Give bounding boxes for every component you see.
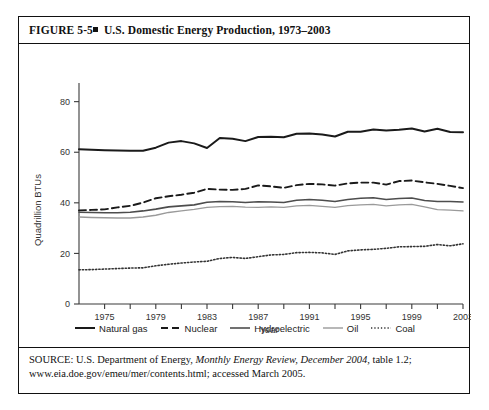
legend-swatch-dotted-icon [371, 324, 391, 332]
legend-label: Coal [395, 323, 415, 334]
legend-item-coal: Coal [371, 323, 415, 334]
legend-item-nuclear: Nuclear [161, 323, 218, 334]
chart-legend: Natural gasNuclearHydroelectricOilCoal [19, 316, 471, 340]
legend-item-natural-gas: Natural gas [75, 323, 148, 334]
legend-swatch-solid-medium-icon [230, 324, 250, 332]
chart-series-group [79, 128, 463, 269]
page-title: U.S. Domestic Energy Production, 1973–20… [104, 24, 331, 36]
line-chart: 0204060801975197919831987199119951999200… [19, 45, 471, 345]
y-tick-label: 20 [60, 249, 70, 259]
series-line-nuclear [79, 181, 463, 211]
figure-title-row: FIGURE 5-5 U.S. Domestic Energy Producti… [19, 17, 469, 43]
source-publication: Monthly Energy Review, December 2004 [196, 354, 368, 365]
y-tick-label: 60 [60, 147, 70, 157]
chart-tick-labels: 0204060801975197919831987199119951999200… [60, 97, 471, 322]
legend-item-oil: Oil [323, 323, 359, 334]
square-bullet-icon [93, 27, 98, 32]
source-divider [19, 347, 469, 348]
legend-label: Hydroelectric [254, 323, 309, 334]
figure-box: FIGURE 5-5 U.S. Domestic Energy Producti… [18, 16, 470, 394]
source-note: SOURCE: U.S. Department of Energy, Month… [29, 353, 459, 381]
figure-number: FIGURE 5-5 [29, 24, 93, 36]
legend-swatch-solid-thick-icon [75, 324, 95, 332]
legend-label: Natural gas [99, 323, 148, 334]
y-tick-label: 0 [65, 299, 70, 309]
y-axis-title: Quadrillion BTUs [32, 174, 43, 246]
source-prefix: SOURCE: U.S. Department of Energy, [29, 354, 196, 365]
legend-label: Nuclear [185, 323, 218, 334]
legend-item-hydroelectric: Hydroelectric [230, 323, 309, 334]
legend-swatch-solid-light-icon [323, 324, 343, 332]
series-line-coal [79, 244, 463, 270]
chart-axes [74, 83, 463, 309]
series-line-natural-gas [79, 128, 463, 150]
legend-swatch-dashed-icon [161, 324, 181, 332]
y-tick-label: 40 [60, 198, 70, 208]
y-tick-label: 80 [60, 97, 70, 107]
legend-label: Oil [347, 323, 359, 334]
chart-plot-area: 0204060801975197919831987199119951999200… [19, 45, 471, 345]
